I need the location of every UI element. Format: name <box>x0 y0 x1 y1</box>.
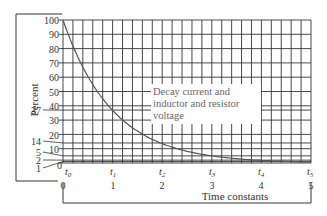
y-tick-90: 90 <box>49 29 59 40</box>
t2-label: t2 <box>159 166 166 179</box>
y-mark-14: 14 <box>31 136 41 147</box>
t3-label: t3 <box>209 166 216 179</box>
annotation-line-2: inductor and resistor <box>153 98 240 109</box>
y-tick-80: 80 <box>49 44 59 55</box>
y-tick-20: 20 <box>49 130 59 141</box>
y-tick-40: 40 <box>49 101 59 112</box>
y-tick-70: 70 <box>49 58 59 69</box>
t5-label: t5 <box>307 166 314 179</box>
y-tick-labels: 100 90 80 70 60 50 40 30 20 10 0 <box>44 15 62 171</box>
y-tick-30: 30 <box>49 115 59 126</box>
t1-label: t1 <box>110 166 116 179</box>
t4-label: t4 <box>258 166 265 179</box>
x-tick-1: 1 <box>111 180 116 191</box>
x-axis-label: Time constants <box>202 190 269 202</box>
x-tick-5: 5 <box>309 180 314 191</box>
decay-chart: Decay current and inductor and resistor … <box>0 0 327 216</box>
y-mark-1: 1 <box>36 163 41 174</box>
x-axis-bracket <box>63 183 311 203</box>
x-tick-4: 4 <box>259 180 264 191</box>
annotation-line-3: voltage <box>153 110 184 121</box>
t-labels: t0 t1 t2 t3 t4 t5 <box>65 166 314 179</box>
x-tick-labels: 0 1 2 3 4 5 <box>61 180 314 191</box>
y-marked-labels: 37 14 5 2 1 <box>31 105 41 174</box>
y-tick-10: 10 <box>49 144 59 155</box>
y-mark-37: 37 <box>31 105 41 116</box>
y-tick-0: 0 <box>57 160 62 171</box>
y-tick-50: 50 <box>49 87 59 98</box>
x-tick-3: 3 <box>210 180 215 191</box>
annotation-line-1: Decay current and <box>153 86 231 97</box>
t0-label: t0 <box>65 166 72 179</box>
x-tick-0: 0 <box>61 180 66 191</box>
y-tick-60: 60 <box>49 72 59 83</box>
x-tick-2: 2 <box>160 180 165 191</box>
y-tick-100: 100 <box>44 15 59 26</box>
